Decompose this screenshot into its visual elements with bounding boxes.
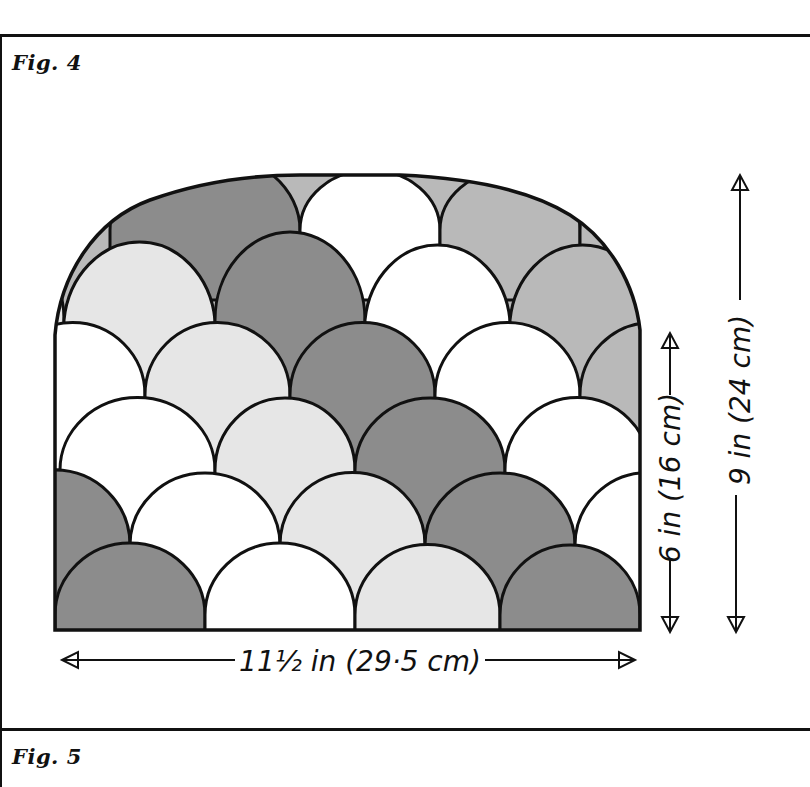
side-height-label: 6 in (16 cm) [654, 393, 687, 563]
bottom-divider [0, 728, 810, 731]
width-dimension-label: 11½ in (29·5 cm) [239, 645, 481, 678]
figure-5-label: Fig. 5 [12, 744, 82, 769]
scale-pattern-diagram: 11½ in (29·5 cm) 6 in (16 cm) 9 in (24 c… [0, 0, 810, 787]
total-height-label: 9 in (24 cm) [724, 315, 757, 485]
